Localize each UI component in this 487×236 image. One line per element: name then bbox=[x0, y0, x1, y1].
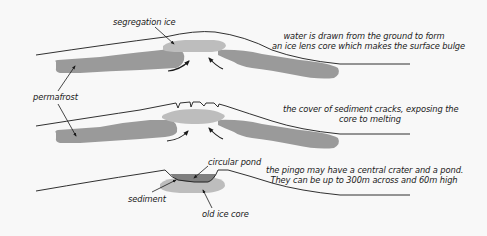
label-permafrost: permafrost bbox=[33, 92, 78, 102]
stage-2-caption-line-1: the cover of sediment cracks, exposing t… bbox=[283, 104, 457, 114]
stage-1-permafrost-left bbox=[55, 49, 184, 73]
stage-2-arrow-right-icon bbox=[209, 128, 223, 139]
stage-2-caption: the cover of sediment cracks, exposing t… bbox=[283, 104, 457, 124]
label-circular-pond: circular pond bbox=[208, 157, 261, 167]
stage-3-caption: the pingo may have a central crater and … bbox=[266, 165, 462, 185]
stage-3-caption-line-1: the pingo may have a central crater and … bbox=[266, 165, 462, 175]
label-segregation-ice: segregation ice bbox=[113, 17, 176, 27]
stage-2-caption-line-2: core to melting bbox=[283, 114, 457, 124]
stage-1-caption-line-1: water is drawn from the ground to form bbox=[272, 31, 456, 41]
label-old-ice-core: old ice core bbox=[202, 209, 249, 219]
stage-1-caption: water is drawn from the ground to form a… bbox=[272, 31, 456, 51]
stage-1-segregation-ice bbox=[163, 40, 226, 52]
label-sediment: sediment bbox=[128, 194, 166, 204]
stage-1-caption-line-2: an ice lens core which makes the surface… bbox=[272, 41, 456, 51]
stage-1-arrow-right-icon bbox=[209, 58, 223, 69]
stage-1-permafrost-right bbox=[218, 50, 339, 79]
stage-3-caption-line-2: They can be up to 300m across and 60m hi… bbox=[266, 175, 462, 185]
stage-2-permafrost-right bbox=[218, 120, 339, 149]
